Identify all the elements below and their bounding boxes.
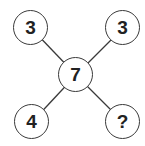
node-top-right: 3	[105, 10, 140, 45]
question-mark: ?	[117, 111, 129, 133]
node-top-left: 3	[13, 10, 48, 45]
node-center: 7	[58, 57, 93, 92]
node-value: 3	[117, 17, 128, 39]
node-bottom-left: 4	[14, 104, 49, 139]
node-value: 3	[25, 17, 36, 39]
node-value: 4	[26, 111, 37, 133]
node-bottom-right-unknown: ?	[105, 104, 140, 139]
puzzle-diagram: 3 3 7 4 ?	[0, 0, 145, 146]
center-value: 7	[70, 64, 81, 86]
